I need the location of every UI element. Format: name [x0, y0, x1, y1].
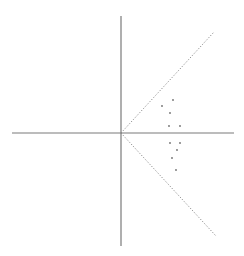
lower-ray: [121, 133, 216, 236]
data-point: [179, 125, 181, 127]
upper-ray: [121, 32, 214, 133]
data-point: [176, 149, 178, 151]
data-point: [169, 142, 171, 144]
diagram-canvas: [0, 0, 244, 256]
data-point: [161, 105, 163, 107]
data-point: [172, 99, 174, 101]
data-points: [161, 99, 181, 171]
cone-rays: [121, 32, 216, 236]
data-point: [179, 142, 181, 144]
data-point: [168, 125, 170, 127]
data-point: [171, 157, 173, 159]
cone-diagram: [0, 0, 244, 256]
data-point: [175, 169, 177, 171]
data-point: [169, 112, 171, 114]
